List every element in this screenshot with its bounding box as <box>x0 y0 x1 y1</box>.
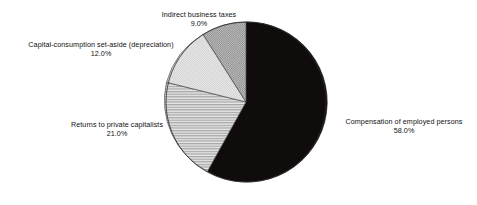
pie-label-capital-consumption-name: Capital-consumption set-aside (depreciat… <box>12 40 190 49</box>
pie-label-indirect-business-taxes-name: Indirect business taxes <box>137 10 261 19</box>
pie-label-returns-private-capitalists-name: Returns to private capitalists <box>55 120 179 129</box>
pie-chart-svg <box>0 0 477 205</box>
pie-label-compensation-name: Compensation of employed persons <box>336 117 472 126</box>
pie-label-returns-private-capitalists-value: 21.0% <box>55 129 179 138</box>
pie-label-returns-private-capitalists: Returns to private capitalists 21.0% <box>55 120 179 139</box>
pie-chart-figure: Indirect business taxes 9.0% Capital-con… <box>0 0 477 205</box>
pie-label-compensation: Compensation of employed persons 58.0% <box>336 117 472 136</box>
pie-label-indirect-business-taxes-value: 9.0% <box>137 19 261 28</box>
pie-label-capital-consumption-value: 12.0% <box>12 49 190 58</box>
pie-label-compensation-value: 58.0% <box>336 126 472 135</box>
pie-label-capital-consumption: Capital-consumption set-aside (depreciat… <box>12 40 190 59</box>
pie-label-indirect-business-taxes: Indirect business taxes 9.0% <box>137 10 261 29</box>
